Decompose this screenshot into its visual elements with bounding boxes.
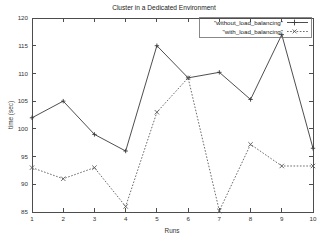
data-point-marker (123, 149, 127, 153)
y-tick-label: 105 (18, 97, 29, 104)
legend-key-with-load-balancing (287, 29, 308, 33)
y-tick-label: 115 (18, 42, 28, 49)
x-tick-label: 3 (93, 215, 97, 222)
legend-key-without-load-balancing (287, 20, 308, 26)
data-point-marker (123, 204, 127, 208)
x-axis-title: Runs (165, 227, 180, 234)
y-axis-ticks: 859095100105110115120 (18, 14, 313, 215)
y-tick-label: 100 (18, 125, 29, 132)
chart-title: Cluster in a Dedicated Environment (112, 4, 216, 11)
x-tick-label: 1 (30, 215, 34, 222)
data-point-marker (30, 116, 34, 120)
line-chart: Cluster in a Dedicated Environment 85909… (0, 0, 328, 239)
y-tick-label: 85 (21, 208, 28, 215)
chart-container: Cluster in a Dedicated Environment 85909… (0, 0, 328, 239)
x-axis-ticks: 12345678910 (30, 18, 317, 222)
x-tick-label: 6 (186, 215, 190, 222)
legend-item-without-load-balancing: "without_load_balancing" (214, 19, 283, 26)
x-tick-label: 4 (124, 215, 128, 222)
y-tick-label: 110 (18, 70, 28, 77)
y-tick-label: 90 (21, 180, 28, 187)
y-tick-label: 95 (21, 153, 28, 160)
series-2 (30, 76, 315, 213)
x-tick-label: 9 (280, 215, 284, 222)
y-axis-title: time (sec) (7, 101, 15, 129)
data-point-marker (311, 146, 315, 150)
x-tick-label: 7 (218, 215, 222, 222)
x-tick-label: 8 (249, 215, 253, 222)
chart-legend: "without_load_balancing" "with_load_bala… (200, 18, 312, 38)
x-tick-label: 10 (310, 215, 317, 222)
series-layer (30, 32, 315, 213)
data-point-marker (280, 164, 284, 168)
x-tick-label: 2 (61, 215, 65, 222)
legend-item-with-load-balancing: "with_load_balancing" (223, 28, 283, 35)
series-1 (30, 32, 315, 153)
plot-frame (32, 18, 313, 212)
data-point-marker (61, 177, 65, 181)
data-point-marker (248, 142, 252, 146)
data-point-marker (92, 165, 96, 169)
y-tick-label: 120 (18, 14, 29, 21)
x-tick-label: 5 (155, 215, 159, 222)
data-point-marker (155, 110, 159, 114)
